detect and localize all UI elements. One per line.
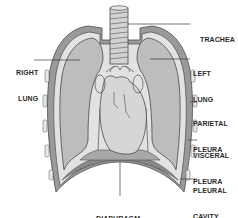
label-diaphragm: DIAPHRAGM (96, 198, 140, 218)
thorax-diagram: TRACHEA RIGHT LUNG LEFT LUNG PARIETAL PL… (0, 0, 238, 218)
trachea (110, 6, 128, 64)
label-pleural-cavity: PLEURAL CAVITY (193, 170, 227, 218)
label-right-lung: RIGHT LUNG (16, 52, 38, 120)
